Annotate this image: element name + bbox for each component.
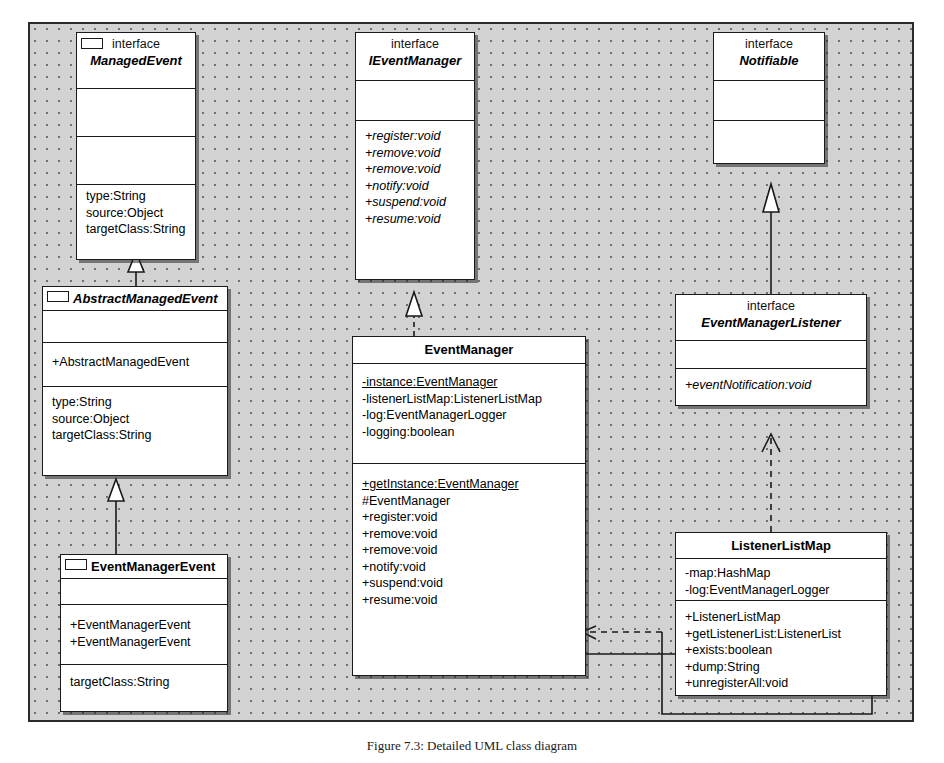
attributes-compartment: -instance:EventManager -listenerListMap:… [353,364,585,464]
member: targetClass:String [61,674,227,691]
relationship-eventmanagerevent-to-abstractmanagedevent [108,479,124,554]
constructors-compartment: +AbstractManagedEvent [43,343,227,387]
class-header: interface EventManagerListener [676,295,866,341]
member: +register:void [356,128,474,145]
class-name: AbstractManagedEvent [47,290,223,307]
member: -map:HashMap [676,565,886,582]
member: -logging:boolean [353,424,585,441]
class-box-event-manager-listener[interactable]: interface EventManagerListener +eventNot… [675,294,867,406]
class-name: EventManagerListener [682,314,860,331]
class-header: ListenerListMap [676,533,886,559]
operations-compartment [714,121,824,163]
operations-compartment [77,137,195,185]
operations-compartment: +eventNotification:void [676,369,866,397]
attributes-compartment [43,311,227,343]
figure-caption: Figure 7.3: Detailed UML class diagram [0,738,944,754]
class-name: EventManager [359,341,579,358]
operations-compartment: +register:void +remove:void +remove:void… [356,121,474,230]
member: +ListenerListMap [676,609,886,626]
member: +notify:void [356,178,474,195]
operations-compartment: +getInstance:EventManager #EventManager … [353,464,585,611]
attributes-compartment [77,89,195,137]
relationship-listenerlistmap-to-eventmanagerlistener [762,434,780,532]
member: +suspend:void [356,194,474,211]
member: +exists:boolean [676,642,886,659]
member: +getListenerList:ListenerList [676,626,886,643]
class-header: EventManager [353,337,585,364]
member: +remove:void [353,542,585,559]
class-header: interface IEventManager [356,33,474,81]
attributes-compartment [61,579,227,605]
member: +register:void [353,509,585,526]
member: +unregisterAll:void [676,675,886,692]
attributes-compartment: -map:HashMap -log:EventManagerLogger [676,559,886,601]
member: targetClass:String [43,427,227,444]
member: +getInstance:EventManager [353,476,585,493]
member: #EventManager [353,493,585,510]
class-box-abstract-managed-event[interactable]: AbstractManagedEvent +AbstractManagedEve… [42,286,228,476]
properties-compartment: type:String source:Object targetClass:St… [77,185,195,241]
class-name: ListenerListMap [682,537,880,554]
class-box-ievent-manager[interactable]: interface IEventManager +register:void +… [355,32,475,280]
class-box-notifiable[interactable]: interface Notifiable [713,32,825,164]
attributes-compartment [356,81,474,121]
member: +EventManagerEvent [61,634,227,651]
class-stereotype: interface [720,37,818,52]
class-box-event-manager[interactable]: EventManager -instance:EventManager -lis… [352,336,586,676]
class-header: EventManagerEvent [61,555,227,579]
member: type:String [77,188,195,205]
properties-compartment: type:String source:Object targetClass:St… [43,387,227,447]
class-name: Notifiable [720,52,818,69]
class-lug-icon [65,559,87,570]
member: +resume:void [356,211,474,228]
member: -log:EventManagerLogger [676,582,886,599]
member: source:Object [77,205,195,222]
member: +remove:void [356,161,474,178]
uml-diagram-canvas: ListenerListMap (solid, open arrow) --> … [28,22,914,722]
attributes-compartment [676,341,866,369]
class-name: EventManagerEvent [65,558,223,575]
class-stereotype: interface [362,37,468,52]
relationship-eventmanager-to-ieventmanager [406,292,422,336]
member: +eventNotification:void [676,377,866,394]
member: +EventManagerEvent [61,617,227,634]
class-lug-icon [47,291,69,302]
class-box-managed-event[interactable]: interface ManagedEvent type:String sourc… [76,32,196,260]
class-header: interface Notifiable [714,33,824,81]
member: source:Object [43,411,227,428]
member: +resume:void [353,592,585,609]
constructors-compartment: +EventManagerEvent +EventManagerEvent [61,605,227,665]
class-stereotype: interface [682,299,860,314]
relationship-eventmanagerlistener-to-notifiable [763,184,779,294]
member: +suspend:void [353,575,585,592]
member: -instance:EventManager [353,374,585,391]
class-box-event-manager-event[interactable]: EventManagerEvent +EventManagerEvent +Ev… [60,554,228,712]
member: type:String [43,394,227,411]
member: -log:EventManagerLogger [353,407,585,424]
interface-lug-icon [81,38,103,49]
member: targetClass:String [77,221,195,238]
class-box-listener-list-map[interactable]: ListenerListMap -map:HashMap -log:EventM… [675,532,887,696]
class-name: IEventManager [362,52,468,69]
member: +remove:void [353,526,585,543]
class-header: AbstractManagedEvent [43,287,227,311]
member: +remove:void [356,145,474,162]
member: -listenerListMap:ListenerListMap [353,391,585,408]
operations-compartment: +ListenerListMap +getListenerList:Listen… [676,601,886,695]
attributes-compartment [714,81,824,121]
class-name: ManagedEvent [83,52,189,69]
member: +AbstractManagedEvent [43,354,227,371]
member: +dump:String [676,659,886,676]
member: +notify:void [353,559,585,576]
properties-compartment: targetClass:String [61,665,227,694]
class-header: interface ManagedEvent [77,33,195,89]
